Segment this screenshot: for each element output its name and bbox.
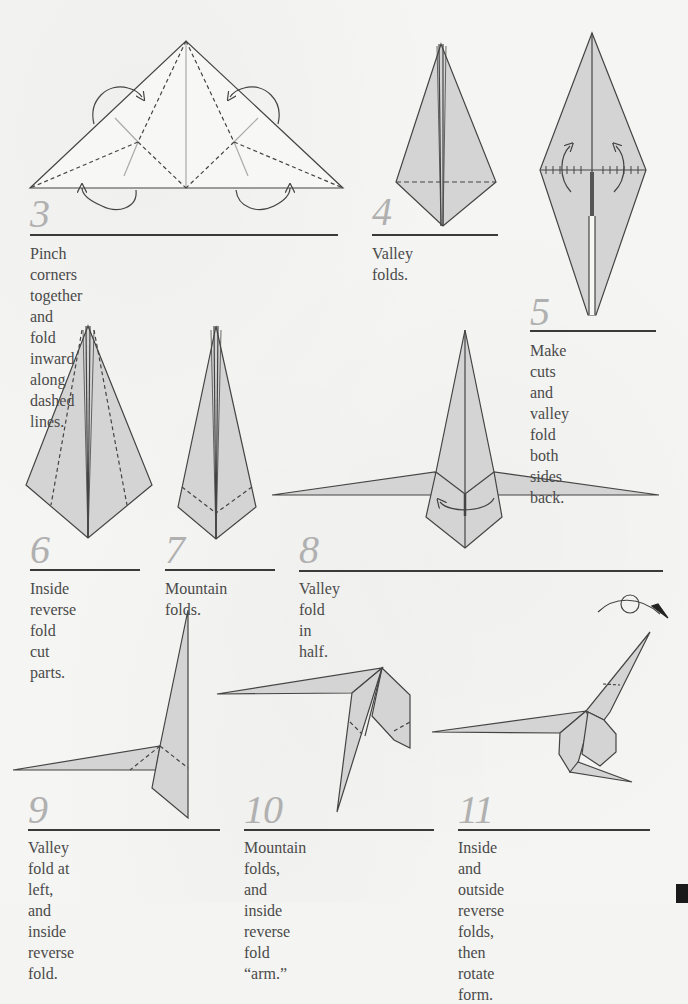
diagram-step-11 — [432, 595, 668, 782]
step-caption: Mountain folds. — [165, 578, 227, 620]
step-caption: Make cuts and valley fold both sides bac… — [530, 340, 569, 508]
step-number: 5 — [530, 292, 549, 332]
diagram-step-3 — [30, 41, 343, 209]
step-number: 9 — [28, 790, 47, 830]
step-caption: Pinch corners together and fold inward a… — [30, 243, 82, 432]
step-rule — [30, 234, 338, 236]
step-number: 8 — [299, 530, 318, 570]
step-rule — [530, 330, 656, 332]
step-rule — [28, 829, 220, 831]
step-number: 7 — [165, 530, 184, 570]
step-caption: Valley fold at left, and inside reverse … — [28, 837, 74, 984]
step-caption: Inside reverse fold cut parts. — [30, 578, 76, 683]
step-number: 4 — [372, 192, 391, 232]
step-rule — [372, 234, 498, 236]
step-caption: Valley folds. — [372, 243, 413, 285]
page-edge-tab-marker — [676, 884, 688, 903]
diagram-step-8 — [272, 330, 659, 548]
step-number: 6 — [30, 530, 49, 570]
step-caption: Valley fold in half. — [299, 578, 340, 662]
diagram-step-7 — [178, 326, 256, 539]
step-number: 3 — [30, 194, 49, 234]
step-rule — [244, 829, 434, 831]
step-rule — [299, 570, 663, 572]
diagram-step-5 — [540, 33, 646, 315]
step-rule — [30, 569, 140, 571]
step-caption: Mountain folds, and inside reverse fold … — [244, 837, 306, 984]
step-rule — [458, 829, 650, 831]
diagram-step-4 — [396, 44, 496, 226]
step-number: 10 — [244, 790, 282, 830]
step-caption: Inside and outside reverse folds, then r… — [458, 837, 504, 1004]
step-number: 11 — [458, 790, 493, 830]
step-rule — [165, 569, 275, 571]
